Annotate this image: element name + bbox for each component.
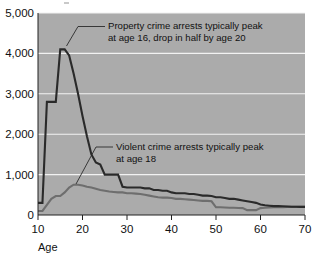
x-axis-ticks: [38, 215, 305, 220]
x-axis-title: Age: [38, 241, 58, 253]
y-tick-label-0: 0: [28, 209, 34, 221]
x-tick-label-60: 60: [254, 223, 267, 235]
violent-annotation-line1: Violent crime arrests typically peak: [116, 141, 264, 152]
crime-arrests-by-age-chart: 5,000 4,000 3,000 2,000 1,000 0 10 20 30…: [0, 0, 318, 258]
x-tick-label-50: 50: [210, 223, 223, 235]
y-tick-label-2000: 2,000: [5, 128, 34, 140]
y-tick-label-3000: 3,000: [5, 88, 34, 100]
y-tick-label-4000: 4,000: [5, 47, 34, 59]
x-tick-label-70: 70: [299, 223, 312, 235]
x-tick-label-30: 30: [121, 223, 134, 235]
violent-annotation-line2: at age 18: [116, 153, 156, 164]
x-tick-label-40: 40: [165, 223, 178, 235]
property-annotation-line2: at age 16, drop in half by age 20: [108, 32, 246, 43]
y-tick-label-1000: 1,000: [5, 169, 34, 181]
chart-svg: 5,000 4,000 3,000 2,000 1,000 0 10 20 30…: [0, 0, 318, 258]
y-tick-label-5000: 5,000: [5, 7, 34, 19]
scan-artifact: [64, 2, 69, 4]
x-tick-label-20: 20: [76, 223, 89, 235]
property-annotation-line1: Property crime arrests typically peak: [108, 20, 263, 31]
x-tick-label-10: 10: [32, 223, 45, 235]
